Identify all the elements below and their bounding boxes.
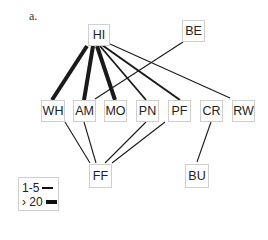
edge-hi-am xyxy=(84,46,93,100)
node-pn: PN xyxy=(136,100,159,122)
thick-line-swatch-icon xyxy=(46,200,57,204)
edge-pf-ff xyxy=(112,122,165,163)
node-ff: FF xyxy=(89,164,112,188)
node-bu: BU xyxy=(185,164,209,188)
node-cr: CR xyxy=(200,100,223,122)
legend-row-thick: › 20 xyxy=(22,195,57,209)
edge-hi-wh xyxy=(52,46,87,100)
edge-cr-bu xyxy=(197,122,211,162)
legend-row-thin: 1-5 xyxy=(22,181,53,195)
node-pf: PF xyxy=(168,100,191,122)
node-hi: HI xyxy=(88,24,110,46)
edge-hi-rw xyxy=(110,44,230,98)
edge-pn-ff xyxy=(105,122,146,163)
node-wh: WH xyxy=(41,100,65,122)
thin-line-swatch-icon xyxy=(42,187,53,189)
node-be: BE xyxy=(182,20,205,42)
legend-thin-label: 1-5 xyxy=(22,181,39,195)
legend: 1-5 › 20 xyxy=(18,177,59,211)
node-rw: RW xyxy=(232,100,255,122)
legend-thick-label: › 20 xyxy=(22,195,43,209)
node-mo: MO xyxy=(104,100,127,122)
node-am: AM xyxy=(73,100,96,122)
